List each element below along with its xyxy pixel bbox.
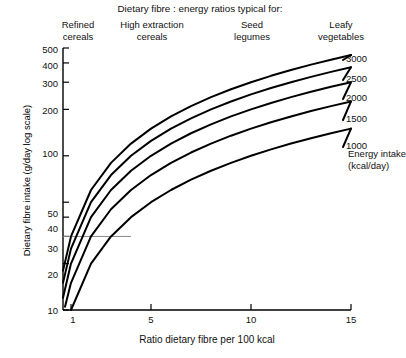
curve-label-2500: 2500	[346, 73, 367, 84]
y-tick-label-500: 500	[42, 44, 58, 55]
y-tick-label-400: 400	[42, 60, 58, 71]
x-axis-title: Ratio dietary fibre per 100 kcal	[139, 334, 275, 345]
y-axis-title: Dietary fibre intake (g/day log scale)	[21, 81, 32, 281]
curve-2000	[63, 82, 351, 298]
energy-caption-line2: (kcal/day)	[348, 160, 389, 171]
y-tick-label-100: 100	[42, 148, 58, 159]
y-tick-label-300: 300	[42, 78, 58, 89]
x-axis-ticks	[71, 304, 351, 310]
y-tick-label-50: 50	[47, 208, 58, 219]
curve-label-1500: 1500	[346, 113, 367, 124]
curve-label-2000: 2000	[346, 92, 367, 103]
y-tick-label-20: 20	[47, 269, 58, 280]
x-tick-label-10: 10	[246, 314, 257, 325]
curve-1500	[65, 101, 351, 306]
x-tick-label-1: 1	[70, 314, 75, 325]
y-tick-label-40: 40	[47, 223, 58, 234]
curve-label-3000: 3000	[346, 53, 367, 64]
y-tick-label-30: 30	[47, 243, 58, 254]
x-tick-label-15: 15	[346, 314, 357, 325]
energy-intake-caption: Energy intake(kcal/day)	[348, 148, 406, 172]
axes	[63, 48, 351, 310]
curve-1000	[71, 129, 351, 310]
energy-caption-line1: Energy intake	[348, 148, 406, 159]
curve-3000	[63, 55, 351, 271]
curve-group	[63, 55, 351, 310]
y-tick-label-10: 10	[47, 305, 58, 316]
y-tick-label-200: 200	[42, 105, 58, 116]
x-tick-label-5: 5	[148, 314, 153, 325]
